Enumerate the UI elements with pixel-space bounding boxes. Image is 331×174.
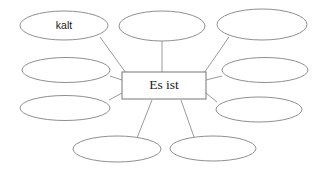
node-top-center-ellipse[interactable] bbox=[119, 11, 205, 41]
node-bottom-right-ellipse[interactable] bbox=[170, 136, 256, 161]
link-bottom-right bbox=[181, 100, 194, 137]
node-top-left-label: kalt bbox=[56, 19, 72, 31]
node-bottom-right[interactable] bbox=[170, 136, 256, 161]
node-top-left[interactable]: kalt bbox=[20, 11, 108, 40]
node-middle-left[interactable] bbox=[22, 58, 110, 83]
node-top-right-ellipse[interactable] bbox=[217, 9, 307, 40]
node-lower-right[interactable] bbox=[216, 97, 302, 122]
link-middle-left bbox=[110, 76, 122, 80]
word-web-diagram: kalt Es ist bbox=[0, 0, 331, 174]
node-bottom-left-ellipse[interactable] bbox=[73, 136, 161, 162]
center-node-label: Es ist bbox=[149, 77, 179, 92]
node-middle-right[interactable] bbox=[222, 58, 308, 83]
link-middle-right bbox=[206, 76, 222, 80]
center-node-group[interactable]: Es ist bbox=[122, 72, 206, 99]
link-lower-left bbox=[109, 93, 122, 100]
node-top-right[interactable] bbox=[217, 9, 307, 40]
diagram-canvas: kalt Es ist bbox=[0, 0, 331, 174]
node-bottom-left[interactable] bbox=[73, 136, 161, 162]
node-lower-left[interactable] bbox=[20, 96, 110, 121]
node-lower-right-ellipse[interactable] bbox=[216, 97, 302, 122]
node-lower-left-ellipse[interactable] bbox=[20, 96, 110, 121]
link-lower-right bbox=[206, 93, 217, 102]
node-middle-left-ellipse[interactable] bbox=[22, 58, 110, 83]
node-middle-right-ellipse[interactable] bbox=[222, 58, 308, 83]
node-top-center[interactable] bbox=[119, 11, 205, 41]
link-bottom-left bbox=[137, 100, 152, 138]
